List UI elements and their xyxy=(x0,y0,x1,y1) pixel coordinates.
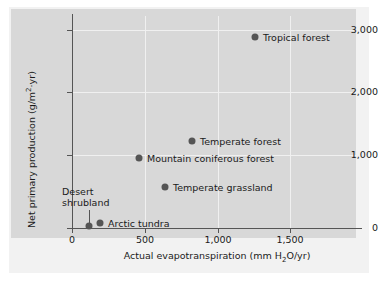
x-axis-title: Actual evapotranspiration (mm H2O/yr) xyxy=(72,250,362,264)
x-axis-title-main: Actual evapotranspiration (mm H xyxy=(124,250,282,261)
y-axis-title-main: Net primary production (g/m xyxy=(26,92,37,228)
x-ticklabel-1000: 1,000 xyxy=(198,235,238,245)
gridline-x-1000 xyxy=(218,16,219,228)
gridline-x-1500 xyxy=(290,16,291,228)
x-ticklabel-500: 500 xyxy=(125,235,165,245)
data-point-temperate-forest[interactable] xyxy=(189,138,196,145)
x-tick-1000 xyxy=(218,228,219,233)
x-tick-500 xyxy=(145,228,146,233)
gridline-x-500 xyxy=(145,16,146,228)
x-ticklabel-1500: 1,500 xyxy=(270,235,310,245)
data-label-desert-shrubland-line1: Desert xyxy=(62,186,94,197)
y-tick-3000 xyxy=(67,30,73,31)
data-label-desert-shrubland: Desert shrubland xyxy=(62,186,122,208)
y-axis-title-superscript: 2 xyxy=(25,87,33,91)
data-label-temperate-forest: Temperate forest xyxy=(200,136,281,147)
data-point-mountain-coniferous-forest[interactable] xyxy=(136,155,143,162)
data-point-temperate-grassland[interactable] xyxy=(162,184,169,191)
data-label-mountain-coniferous-forest: Mountain coniferous forest xyxy=(147,153,274,164)
data-label-arctic-tundra: Arctic tundra xyxy=(108,218,170,229)
y-ticklabel-2000: 2,000 xyxy=(314,87,378,97)
data-label-temperate-grassland: Temperate grassland xyxy=(173,182,273,193)
y-axis-title: Net primary production (g/m2·yr) xyxy=(25,71,37,228)
x-axis-title-tail: O/yr) xyxy=(286,250,310,261)
desert-shrubland-leader-line xyxy=(89,210,90,224)
x-ticklabel-0: 0 xyxy=(52,235,92,245)
data-label-tropical-forest: Tropical forest xyxy=(263,32,330,43)
x-tick-0 xyxy=(72,228,73,233)
data-point-arctic-tundra[interactable] xyxy=(97,220,104,227)
y-ticklabel-0: 0 xyxy=(314,223,378,233)
y-tick-1000 xyxy=(67,155,73,156)
x-tick-1500 xyxy=(290,228,291,233)
y-ticklabel-1000: 1,000 xyxy=(314,150,378,160)
data-label-desert-shrubland-line2: shrubland xyxy=(62,197,109,208)
scatter-plot-figure: 3,000 2,000 1,000 0 0 500 1,000 1,500 Ac… xyxy=(0,0,378,281)
y-axis-title-tail: ·yr) xyxy=(26,71,37,87)
data-point-tropical-forest[interactable] xyxy=(252,34,259,41)
y-tick-2000 xyxy=(67,92,73,93)
